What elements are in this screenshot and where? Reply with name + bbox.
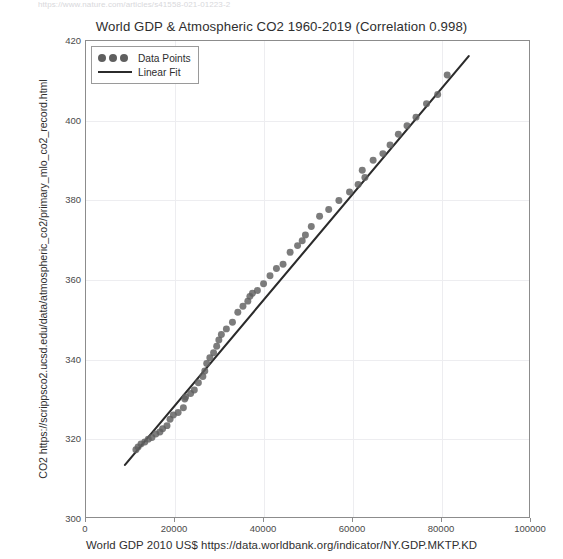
data-point (287, 249, 294, 256)
y-tick-label: 380 (51, 194, 81, 205)
legend-item-linear-fit: Linear Fit (97, 65, 191, 79)
data-point (302, 231, 309, 238)
y-tick-label: 340 (51, 353, 81, 364)
y-tick-label: 420 (51, 35, 81, 46)
chart-title: World GDP & Atmospheric CO2 1960-2019 (C… (0, 19, 563, 34)
data-point (163, 422, 170, 429)
data-point (335, 197, 342, 204)
x-tick-label: 40000 (250, 523, 276, 534)
data-point (191, 386, 198, 393)
data-point (239, 303, 246, 310)
plot-area (85, 40, 530, 518)
data-point (210, 349, 217, 356)
chart-legend: Data Points Linear Fit (91, 46, 199, 84)
x-tick-label: 20000 (161, 523, 187, 534)
data-point (299, 237, 306, 244)
chart-page: https://www.nature.com/articles/s41558-0… (0, 0, 563, 559)
data-point (434, 91, 441, 98)
data-point (180, 404, 187, 411)
x-tick-mark (352, 518, 353, 522)
data-point (370, 157, 377, 164)
x-tick-mark (530, 518, 531, 522)
x-axis-title: World GDP 2010 US$ https://data.worldban… (0, 539, 563, 551)
data-point (229, 319, 236, 326)
linear-fit-line-icon (97, 66, 133, 78)
data-point (273, 265, 280, 272)
data-point (213, 343, 220, 350)
data-point (444, 72, 451, 79)
x-tick-label: 80000 (428, 523, 454, 534)
data-point-group (132, 72, 450, 454)
data-point (175, 409, 182, 416)
y-tick-label: 320 (51, 433, 81, 444)
x-tick-mark (85, 518, 86, 522)
data-point (361, 174, 368, 181)
legend-item-data-points: Data Points (97, 51, 191, 65)
data-point (223, 325, 230, 332)
data-point (395, 131, 402, 138)
data-point (387, 141, 394, 148)
data-point (254, 287, 261, 294)
data-point (404, 122, 411, 129)
data-point (234, 309, 241, 316)
x-axis-ticks: 020000400006000080000100000 (85, 518, 530, 540)
y-tick-label: 300 (51, 513, 81, 524)
x-tick-mark (441, 518, 442, 522)
data-point (201, 367, 208, 374)
data-points-marker-icon (97, 52, 133, 64)
x-tick-label: 60000 (339, 523, 365, 534)
x-tick-mark (263, 518, 264, 522)
data-point (280, 261, 287, 268)
data-point (260, 280, 267, 287)
clipped-header-text: https://www.nature.com/articles/s41558-0… (38, 0, 508, 9)
x-tick-mark (174, 518, 175, 522)
data-point (195, 379, 202, 386)
data-point (316, 213, 323, 220)
data-point (325, 206, 332, 213)
legend-label-linear-fit: Linear Fit (138, 67, 180, 78)
y-tick-label: 400 (51, 114, 81, 125)
y-tick-label: 360 (51, 274, 81, 285)
chart-canvas (86, 41, 529, 517)
data-point (379, 150, 386, 157)
data-point (359, 167, 366, 174)
y-axis-title: CO2 https://scrippsco2.ucsd.edu/data/atm… (32, 40, 54, 518)
data-point (413, 114, 420, 121)
data-point (267, 272, 274, 279)
data-point (308, 223, 315, 230)
x-tick-label: 0 (82, 523, 87, 534)
legend-label-data-points: Data Points (138, 53, 191, 64)
data-point (355, 181, 362, 188)
data-point (423, 100, 430, 107)
x-tick-label: 100000 (514, 523, 546, 534)
data-point (218, 331, 225, 338)
data-point (346, 189, 353, 196)
